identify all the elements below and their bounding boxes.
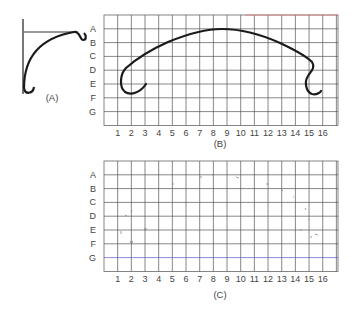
figure-a-bracket: (A) <box>23 19 86 103</box>
column-label: 5 <box>170 274 175 284</box>
row-label: A <box>90 170 96 180</box>
row-label: B <box>90 184 96 194</box>
figure-c-grid: ABCDEFG12345678910111213141516 <box>89 161 338 284</box>
column-label: 16 <box>318 274 328 284</box>
column-label: 10 <box>236 274 246 284</box>
row-label: C <box>90 197 97 207</box>
column-label: 12 <box>263 274 273 284</box>
column-label: 1 <box>115 274 120 284</box>
row-label: A <box>90 24 96 34</box>
row-label: G <box>89 253 96 263</box>
figure-c-points <box>121 175 318 243</box>
column-label: 4 <box>156 128 161 138</box>
column-label: 14 <box>290 128 300 138</box>
column-label: 7 <box>197 274 202 284</box>
column-label: 8 <box>211 274 216 284</box>
column-label: 6 <box>184 128 189 138</box>
column-label: 15 <box>304 128 314 138</box>
figure-a-caption: (A) <box>46 92 59 103</box>
row-label: F <box>91 239 97 249</box>
row-label: G <box>89 107 96 117</box>
figure-b-curve <box>121 29 321 94</box>
figure-b-caption: (B) <box>214 138 227 149</box>
hook-diagram: (A) ABCDEFG12345678910111213141516 (B) A… <box>0 0 356 316</box>
row-label: B <box>90 38 96 48</box>
column-label: 11 <box>250 274 259 284</box>
column-label: 9 <box>225 274 230 284</box>
column-label: 15 <box>304 274 314 284</box>
column-label: 3 <box>143 274 148 284</box>
column-label: 14 <box>290 274 300 284</box>
column-label: 6 <box>184 274 189 284</box>
column-label: 10 <box>236 128 246 138</box>
column-label: 8 <box>211 128 216 138</box>
row-label: D <box>90 65 97 75</box>
column-label: 1 <box>115 128 120 138</box>
column-label: 2 <box>129 128 134 138</box>
column-label: 16 <box>318 128 328 138</box>
column-label: 9 <box>225 128 230 138</box>
row-label: D <box>90 211 97 221</box>
column-label: 13 <box>277 128 287 138</box>
row-label: E <box>90 79 96 89</box>
row-label: E <box>90 225 96 235</box>
column-label: 12 <box>263 128 273 138</box>
row-label: C <box>90 51 97 61</box>
column-label: 7 <box>197 128 202 138</box>
figure-c-caption: (C) <box>213 289 226 300</box>
figure-b-grid: ABCDEFG12345678910111213141516 <box>89 15 338 138</box>
column-label: 5 <box>170 128 175 138</box>
column-label: 11 <box>250 128 259 138</box>
column-label: 3 <box>143 128 148 138</box>
row-label: F <box>91 93 97 103</box>
column-label: 4 <box>156 274 161 284</box>
column-label: 2 <box>129 274 134 284</box>
column-label: 13 <box>277 274 287 284</box>
